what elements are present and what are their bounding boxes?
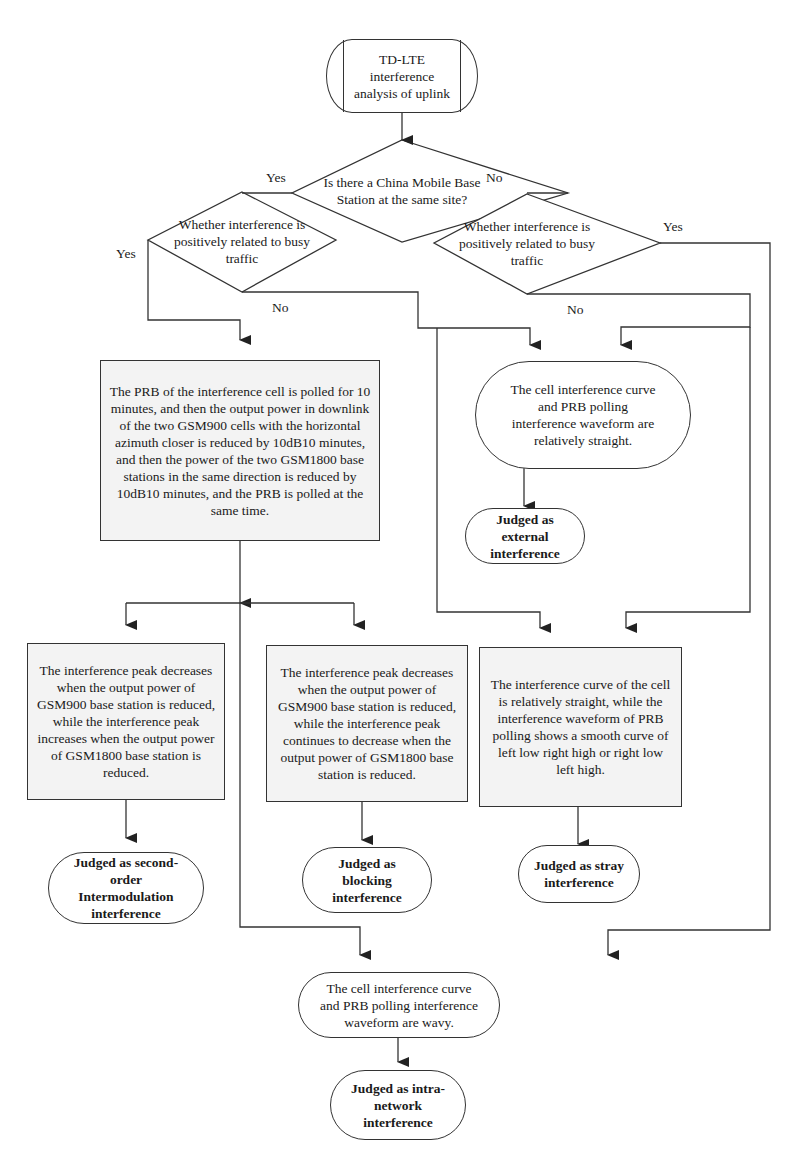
result-external-label: Judged as external interference: [480, 511, 570, 562]
start-label: TD-LTE interference analysis of uplink: [344, 51, 460, 102]
site-no-label: No: [486, 170, 503, 186]
result-blocking-label: Judged as blocking interference: [317, 855, 417, 906]
process-peak-increase-label: The interference peak decreases when the…: [36, 662, 216, 781]
process-straight-curve: The cell interference curve and PRB poll…: [475, 361, 691, 469]
process-wavy: The cell interference curve and PRB poll…: [298, 972, 500, 1038]
right-yes-label: Yes: [663, 219, 683, 235]
process-wavy-label: The cell interference curve and PRB poll…: [313, 980, 485, 1031]
result-stray-label: Judged as stray interference: [533, 857, 625, 891]
process-prb-poll: The PRB of the interference cell is poll…: [100, 360, 380, 541]
decision-right-label: Whether interference is positively relat…: [445, 218, 609, 269]
decision-left-label: Whether interference is positively relat…: [160, 216, 324, 267]
left-yes-label: Yes: [116, 246, 136, 262]
site-yes-label: Yes: [266, 170, 286, 186]
process-smooth-curve: The interference curve of the cell is re…: [479, 647, 682, 807]
result-intermod: Judged as second-order Intermodulation i…: [48, 852, 204, 924]
result-stray: Judged as stray interference: [518, 845, 640, 903]
process-prb-poll-label: The PRB of the interference cell is poll…: [109, 383, 371, 519]
decision-right-traffic: Whether interference is positively relat…: [445, 214, 609, 272]
result-external: Judged as external interference: [465, 508, 585, 564]
decision-site-label: Is there a China Mobile Base Station at …: [322, 174, 482, 208]
process-peak-decrease: The interference peak decreases when the…: [266, 645, 468, 802]
decision-left-traffic: Whether interference is positively relat…: [160, 212, 324, 270]
start-node: TD-LTE interference analysis of uplink: [326, 39, 478, 113]
process-peak-decrease-label: The interference peak decreases when the…: [275, 664, 459, 783]
process-peak-increase: The interference peak decreases when the…: [27, 643, 225, 800]
process-straight-curve-label: The cell interference curve and PRB poll…: [490, 381, 676, 449]
right-no-label: No: [567, 302, 584, 318]
result-blocking: Judged as blocking interference: [302, 847, 432, 913]
result-intermod-label: Judged as second-order Intermodulation i…: [63, 854, 189, 922]
result-intra: Judged as intra-network interference: [330, 1070, 466, 1140]
process-smooth-curve-label: The interference curve of the cell is re…: [488, 676, 673, 778]
result-intra-label: Judged as intra-network interference: [345, 1080, 451, 1131]
left-no-label: No: [272, 300, 289, 316]
flowchart-canvas: TD-LTE interference analysis of uplink I…: [0, 0, 796, 1170]
decision-site: Is there a China Mobile Base Station at …: [322, 160, 482, 222]
